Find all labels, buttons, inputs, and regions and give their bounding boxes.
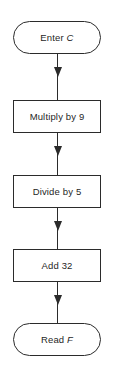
node-label-start: Enter C — [40, 33, 73, 43]
connector-start-to-multiply — [49, 54, 66, 100]
arrowhead-icon — [54, 295, 62, 305]
arrowhead-icon — [54, 67, 62, 77]
node-label-multiply-text: Multiply by 9 — [30, 111, 85, 122]
flowchart-node-end: Read F — [13, 323, 101, 356]
flowchart-node-multiply: Multiply by 9 — [13, 100, 101, 133]
connector-add-to-end — [49, 282, 66, 323]
node-label-end-variable: F — [67, 334, 73, 345]
node-label-start-variable: C — [67, 32, 74, 43]
node-label-divide: Divide by 5 — [33, 187, 82, 197]
connector-line — [57, 54, 58, 100]
node-label-multiply: Multiply by 9 — [30, 112, 85, 122]
flowchart-node-start: Enter C — [13, 21, 101, 54]
node-label-add: Add 32 — [41, 261, 72, 271]
node-label-end: Read F — [41, 335, 73, 345]
flowchart-diagram: Enter C Multiply by 9 Divide by 5 Add 32… — [0, 0, 114, 371]
arrowhead-icon — [54, 146, 62, 156]
node-label-divide-text: Divide by 5 — [33, 186, 82, 197]
node-label-start-text: Enter — [40, 32, 66, 43]
flowchart-node-add: Add 32 — [13, 249, 101, 282]
node-label-end-text: Read — [41, 334, 67, 345]
flowchart-node-divide: Divide by 5 — [13, 175, 101, 208]
arrowhead-icon — [54, 221, 62, 231]
node-label-add-text: Add 32 — [41, 260, 72, 271]
connector-multiply-to-divide — [49, 133, 66, 175]
connector-divide-to-add — [49, 208, 66, 249]
